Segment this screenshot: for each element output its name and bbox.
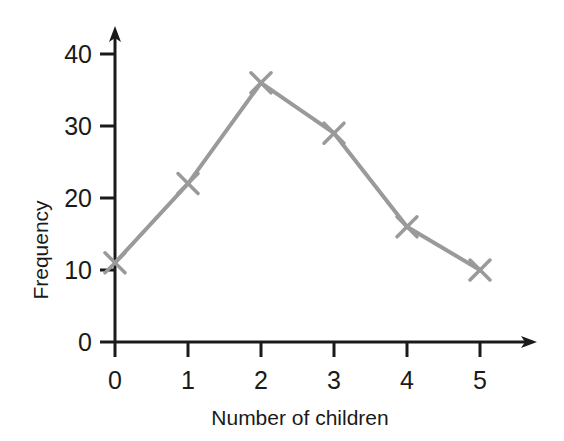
x-tick-label-3: 3 [327,366,341,394]
x-tick-label-2: 2 [254,366,268,394]
x-axis-title: Number of children [211,406,388,429]
x-tick-label-0: 0 [108,366,122,394]
x-tick-label-5: 5 [473,366,487,394]
chart-canvas: 0 10 20 30 40 Frequency 0 1 2 3 4 5 [0,0,564,441]
y-tick-label-30: 30 [64,112,92,140]
x-tick-label-4: 4 [400,366,414,394]
y-tick-label-10: 10 [64,256,92,284]
y-axis-title: Frequency [29,200,52,300]
frequency-polygon-chart: 0 10 20 30 40 Frequency 0 1 2 3 4 5 [0,0,564,441]
y-tick-label-20: 20 [64,184,92,212]
y-tick-label-40: 40 [64,40,92,68]
x-tick-label-1: 1 [181,366,195,394]
y-tick-label-0: 0 [78,328,92,356]
